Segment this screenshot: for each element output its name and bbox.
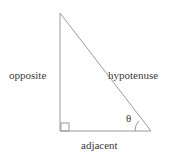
adjacent-label: adjacent [81, 139, 118, 151]
right-triangle-diagram: opposite hypotenuse adjacent θ [0, 0, 180, 161]
theta-symbol-label: θ [126, 112, 131, 124]
opposite-label: opposite [9, 69, 46, 81]
right-angle-marker-icon [61, 123, 69, 131]
theta-angle-arc-icon [135, 121, 139, 131]
hypotenuse-label: hypotenuse [108, 69, 158, 81]
